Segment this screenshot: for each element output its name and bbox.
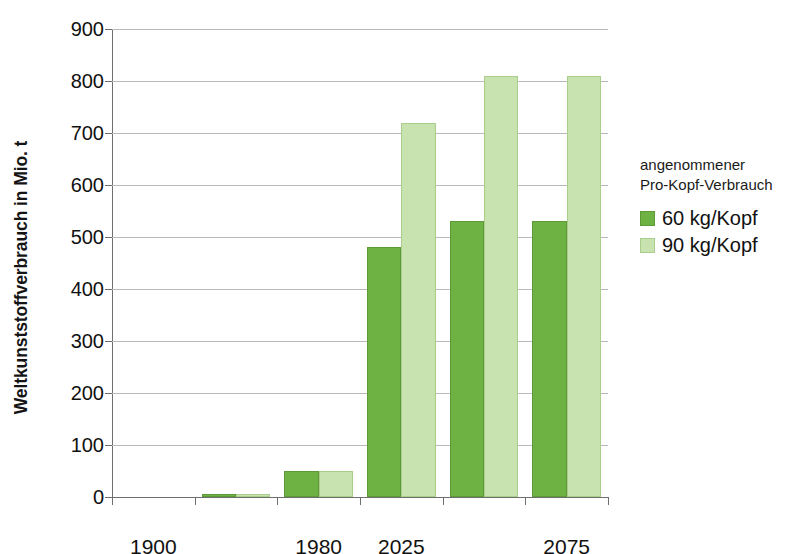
bar-2075-series-0[interactable] <box>532 221 566 497</box>
y-axis-tick <box>105 29 112 30</box>
legend: angenommener Pro-Kopf-Verbrauch 60 kg/Ko… <box>640 155 806 261</box>
legend-title-line-1: angenommener <box>640 155 806 175</box>
y-axis-tick <box>105 81 112 82</box>
y-axis-tick-label: 0 <box>48 486 104 509</box>
y-axis-title-text: Weltkunststoffverbrauch in Mio. t <box>12 140 33 413</box>
bar-slot-1-series-0[interactable] <box>202 494 236 497</box>
x-axis-tick-label: 1900 <box>130 535 177 554</box>
bar-slot-1-series-1[interactable] <box>236 494 270 497</box>
x-axis-tick-label: 2075 <box>543 535 590 554</box>
x-axis-tick <box>112 497 113 505</box>
bar-slot-4-series-0[interactable] <box>450 221 484 497</box>
y-axis-tick-label: 300 <box>48 330 104 353</box>
y-axis-tick-label: 200 <box>48 382 104 405</box>
y-axis-tick-label: 700 <box>48 122 104 145</box>
legend-title-line-2: Pro-Kopf-Verbrauch <box>640 175 806 195</box>
gridline <box>112 29 608 30</box>
x-axis-tick <box>195 497 196 505</box>
y-axis-tick-label: 400 <box>48 278 104 301</box>
legend-label-60: 60 kg/Kopf <box>662 207 758 230</box>
x-axis-tick-label: 1980 <box>295 535 342 554</box>
legend-item-90[interactable]: 90 kg/Kopf <box>640 234 806 257</box>
legend-swatch-90-icon <box>640 238 655 253</box>
gridline <box>112 81 608 82</box>
plot-area: 1900198020252075 <box>112 29 608 497</box>
y-axis-tick <box>105 185 112 186</box>
gridline <box>112 133 608 134</box>
y-axis-tick <box>105 289 112 290</box>
gridline <box>112 185 608 186</box>
bar-1980-series-0[interactable] <box>284 471 318 497</box>
legend-item-60[interactable]: 60 kg/Kopf <box>640 207 806 230</box>
bar-chart: Weltkunststoffverbrauch in Mio. t 010020… <box>0 0 806 554</box>
y-axis-tick-label: 900 <box>48 18 104 41</box>
x-axis-tick <box>443 497 444 505</box>
legend-label-90: 90 kg/Kopf <box>662 234 758 257</box>
y-axis-tick <box>105 237 112 238</box>
bar-2075-series-1[interactable] <box>567 76 601 497</box>
x-axis-tick-label: 2025 <box>378 535 425 554</box>
x-axis-tick <box>608 497 609 505</box>
y-axis-tick <box>105 445 112 446</box>
y-axis-tick-label: 100 <box>48 434 104 457</box>
y-axis-title: Weltkunststoffverbrauch in Mio. t <box>0 0 44 554</box>
x-axis-tick <box>525 497 526 505</box>
x-axis-tick <box>277 497 278 505</box>
y-axis-tick <box>105 133 112 134</box>
y-axis-tick <box>105 341 112 342</box>
y-axis-tick-label: 500 <box>48 226 104 249</box>
legend-swatch-60-icon <box>640 211 655 226</box>
bar-2025-series-1[interactable] <box>401 123 435 497</box>
y-axis-tick <box>105 497 112 498</box>
y-axis-tick <box>105 393 112 394</box>
y-axis-tick-labels: 0100200300400500600700800900 <box>46 29 104 497</box>
bar-1980-series-1[interactable] <box>319 471 353 497</box>
y-axis-tick-label: 800 <box>48 70 104 93</box>
y-axis-tick-label: 600 <box>48 174 104 197</box>
legend-title: angenommener Pro-Kopf-Verbrauch <box>640 155 806 195</box>
bar-2025-series-0[interactable] <box>367 247 401 497</box>
x-axis-tick <box>360 497 361 505</box>
bar-slot-4-series-1[interactable] <box>484 76 518 497</box>
